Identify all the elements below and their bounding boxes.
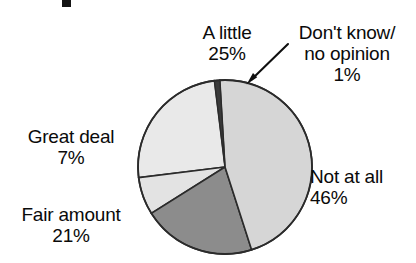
slice-label-great-deal-value: 7%: [8, 147, 134, 168]
slice-label-great-deal: Great deal 7%: [8, 126, 134, 168]
pie-slice-a-little[interactable]: [138, 81, 225, 178]
slice-label-fair-amount-value: 21%: [4, 225, 138, 246]
slice-label-a-little: A little 25%: [181, 22, 273, 64]
slice-label-fair-amount: Fair amount 21%: [4, 204, 138, 246]
slice-label-dont-know: Don't know/ no opinion 1%: [283, 22, 411, 85]
slice-label-not-at-all-value: 46%: [310, 187, 416, 208]
slice-label-dont-know-line2: no opinion: [283, 43, 411, 64]
slice-label-dont-know-line1: Don't know/: [299, 22, 395, 43]
chart-canvas: A little 25% Don't know/ no opinion 1% N…: [0, 0, 416, 263]
slice-label-a-little-value: 25%: [181, 43, 273, 64]
slice-label-not-at-all: Not at all 46%: [310, 166, 416, 208]
slice-label-great-deal-name: Great deal: [28, 126, 115, 147]
slice-label-not-at-all-name: Not at all: [310, 166, 383, 187]
slice-label-a-little-name: A little: [202, 22, 251, 43]
slice-label-dont-know-value: 1%: [283, 64, 411, 85]
slice-label-fair-amount-name: Fair amount: [21, 204, 120, 225]
